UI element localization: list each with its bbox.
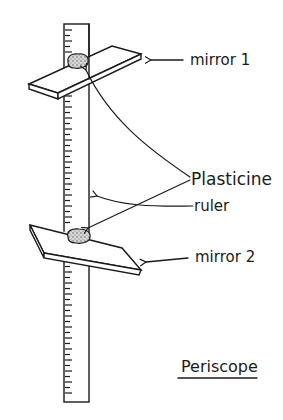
label-mirror-2: mirror 2 <box>195 248 255 266</box>
arrow-plasticine-1 <box>86 70 190 177</box>
plasticine-blob-2 <box>68 229 91 243</box>
label-ruler: ruler <box>194 197 230 215</box>
diagram-title: Periscope <box>181 357 258 376</box>
label-mirror-1: mirror 1 <box>190 51 250 69</box>
plasticine-blob-1 <box>68 54 88 68</box>
periscope-diagram: mirror 1 Plasticine ruler mirror 2 Peris… <box>0 0 283 420</box>
leader-lines <box>86 60 193 262</box>
arrow-plasticine-2 <box>88 180 190 228</box>
arrow-mirror-2 <box>146 258 188 262</box>
label-plasticine: Plasticine <box>191 169 272 189</box>
